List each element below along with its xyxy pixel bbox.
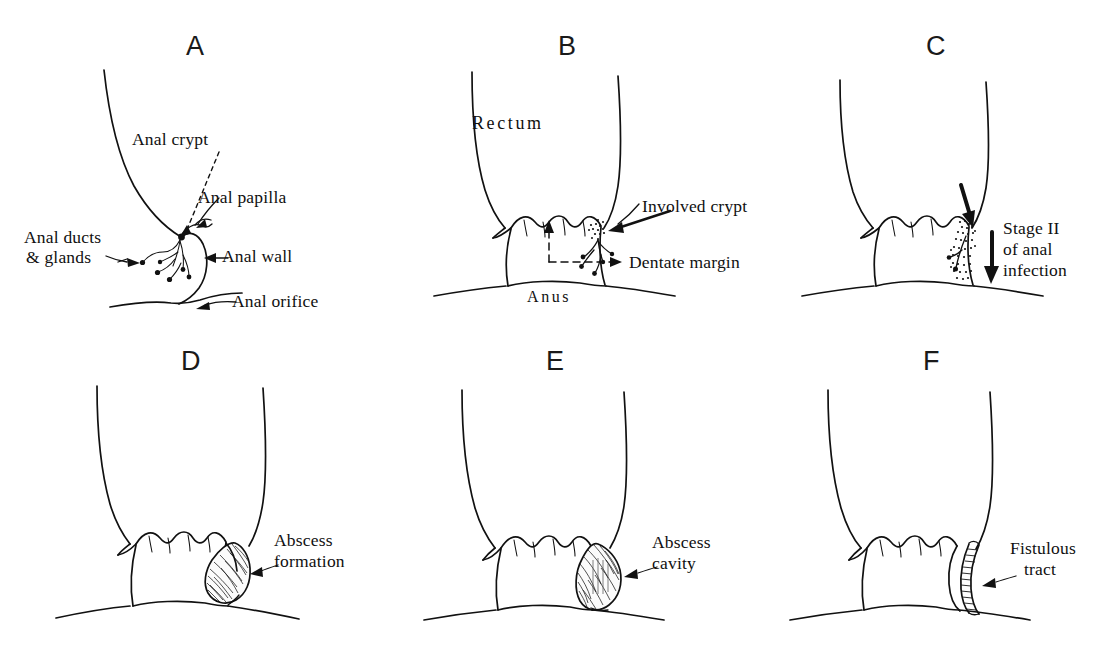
label-anus: Anus xyxy=(527,289,571,306)
panel-a: A xyxy=(0,0,372,322)
panel-b: B xyxy=(372,0,744,322)
panel-letter-d: D xyxy=(181,348,201,375)
panel-c: C xyxy=(744,0,1115,322)
label-anal-orifice: Anal orifice xyxy=(232,292,318,311)
label-anal-papilla: Anal papilla xyxy=(198,188,286,207)
panel-f: F xyxy=(744,322,1115,644)
stipple-involved-crypt xyxy=(588,219,605,240)
panel-d: D xyxy=(0,322,372,644)
label-anal-ducts-line1: Anal ducts xyxy=(24,228,101,247)
label-fistulous-tract-line1: Fistulous xyxy=(1010,539,1076,558)
label-fistulous-tract-line2: tract xyxy=(1024,560,1056,579)
label-abscess-cavity-line1: Abscess xyxy=(652,533,711,552)
label-dentate-margin: Dentate margin xyxy=(629,253,740,272)
panel-letter-a: A xyxy=(186,33,205,60)
label-abscess-formation-line2: formation xyxy=(274,552,345,571)
panel-e: E xyxy=(372,322,744,644)
label-stage-line3: infection xyxy=(1003,261,1067,280)
stipple-infection-tract xyxy=(950,220,976,280)
label-involved-crypt: Involved crypt xyxy=(642,197,747,216)
panel-letter-b: B xyxy=(558,33,577,60)
panel-letter-e: E xyxy=(546,348,565,375)
label-stage-line2: of anal xyxy=(1003,240,1053,259)
label-anal-wall: Anal wall xyxy=(222,247,292,266)
panel-letter-c: C xyxy=(926,33,946,60)
label-rectum: Rectum xyxy=(472,114,544,133)
label-anal-crypt: Anal crypt xyxy=(132,130,208,149)
label-stage-line1: Stage II xyxy=(1003,219,1060,238)
figure-root: A xyxy=(0,0,1115,645)
panel-letter-f: F xyxy=(923,348,940,375)
label-abscess-formation-line1: Abscess xyxy=(274,531,333,550)
label-abscess-cavity-line2: cavity xyxy=(652,554,696,573)
label-anal-ducts-line2: & glands xyxy=(26,248,91,267)
